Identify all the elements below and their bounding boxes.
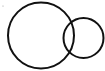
corner-dot — [2, 5, 3, 6]
venn-diagram — [0, 0, 105, 71]
background — [0, 0, 105, 71]
